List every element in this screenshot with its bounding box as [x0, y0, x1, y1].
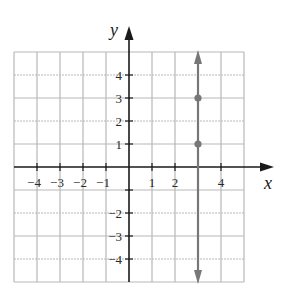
x-axis-arrow-icon [260, 163, 274, 172]
x-tick-label: 1 [149, 175, 156, 190]
x-tick-label: −2 [73, 175, 87, 190]
y-axis-label: y [108, 20, 118, 40]
data-point [194, 94, 201, 101]
x-axis-label: x [263, 173, 272, 193]
y-tick-label: −4 [108, 252, 122, 267]
y-tick-label: −3 [108, 229, 122, 244]
x-tick-label: 4 [218, 175, 225, 190]
x-tick-label: −1 [96, 175, 110, 190]
x-tick-label: −4 [27, 175, 41, 190]
x-tick-label: −3 [50, 175, 64, 190]
data-point [194, 140, 201, 147]
coordinate-plane: −4−3−2−11244321−2−3−4 x y [0, 0, 286, 304]
y-axis-arrow-icon [125, 26, 134, 40]
x-tick-label: 2 [172, 175, 179, 190]
y-tick-label: 4 [116, 68, 123, 83]
y-tick-label: 2 [116, 114, 123, 129]
y-tick-label: 3 [116, 91, 123, 106]
y-tick-label: −2 [108, 206, 122, 221]
axes [14, 26, 274, 282]
y-tick-label: 1 [116, 137, 123, 152]
